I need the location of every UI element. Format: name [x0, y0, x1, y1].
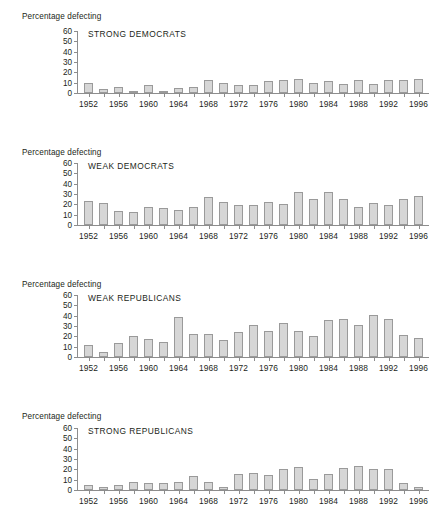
- bar: [309, 336, 318, 357]
- bar-slot: [216, 295, 231, 357]
- x-tick-label: 1972: [229, 231, 248, 241]
- bar-slot: [96, 295, 111, 357]
- bar: [249, 325, 258, 357]
- bar: [339, 199, 348, 225]
- bar: [84, 345, 93, 357]
- bar: [219, 83, 228, 93]
- y-tick-label: 40: [63, 444, 72, 453]
- bar: [264, 202, 273, 225]
- bar: [339, 84, 348, 93]
- bar-slot: [126, 428, 141, 490]
- bar-slot: [171, 163, 186, 225]
- bar-slot: [111, 163, 126, 225]
- bar: [354, 466, 363, 490]
- bar-slot: [366, 295, 381, 357]
- x-tick-label: 1956: [109, 99, 128, 109]
- bar-slot: [246, 295, 261, 357]
- x-tick-label: 1996: [409, 99, 428, 109]
- bar: [189, 207, 198, 225]
- bar-slot: [351, 428, 366, 490]
- bar-slot: [411, 31, 426, 93]
- bar: [384, 205, 393, 225]
- bar-slot: [276, 295, 291, 357]
- bar: [384, 319, 393, 357]
- x-tick-label: 1980: [289, 231, 308, 241]
- bar-slot: [156, 428, 171, 490]
- x-tick-label: 1980: [289, 363, 308, 373]
- x-tick-label: 1956: [109, 496, 128, 506]
- bar-slot: [381, 31, 396, 93]
- x-tick-label: 1964: [169, 231, 188, 241]
- bar-slot: [291, 163, 306, 225]
- x-tick-label: 1964: [169, 363, 188, 373]
- bar: [129, 212, 138, 225]
- bar-slot: [396, 31, 411, 93]
- bar: [264, 331, 273, 357]
- x-tick-label: 1996: [409, 496, 428, 506]
- bar-slot: [81, 163, 96, 225]
- bar-slot: [381, 163, 396, 225]
- bar: [204, 197, 213, 225]
- y-tick-label: 10: [63, 78, 72, 87]
- bar: [234, 332, 243, 357]
- bar: [309, 83, 318, 93]
- bar-slot: [111, 31, 126, 93]
- x-tick-label: 1992: [379, 363, 398, 373]
- bar-slot: [276, 428, 291, 490]
- y-tick-label: 0: [67, 353, 72, 362]
- bar-slot: [81, 428, 96, 490]
- bar: [84, 83, 93, 93]
- bar: [354, 80, 363, 93]
- bar: [159, 483, 168, 490]
- x-tick-label: 1968: [199, 496, 218, 506]
- y-tick-label: 60: [63, 27, 72, 36]
- y-tick-label: 60: [63, 291, 72, 300]
- bar: [339, 319, 348, 357]
- x-tick-label: 1972: [229, 496, 248, 506]
- bar-slot: [246, 31, 261, 93]
- bar: [294, 192, 303, 225]
- x-axis-labels: 1952195619601964196819721976198019841988…: [78, 490, 429, 506]
- bar: [264, 475, 273, 490]
- bar-slot: [276, 163, 291, 225]
- bar-slot: [111, 428, 126, 490]
- bar-slot: [351, 163, 366, 225]
- x-tick-label: 1976: [259, 496, 278, 506]
- bar-slot: [261, 31, 276, 93]
- bar-slot: [246, 428, 261, 490]
- y-tick-label: 0: [67, 486, 72, 495]
- bar: [384, 469, 393, 490]
- x-tick-label: 1964: [169, 99, 188, 109]
- bar: [354, 207, 363, 225]
- x-tick-label: 1972: [229, 99, 248, 109]
- y-tick-label: 50: [63, 37, 72, 46]
- bar-slot: [141, 31, 156, 93]
- bar-slot: [321, 428, 336, 490]
- bar-slot: [201, 428, 216, 490]
- bar: [369, 315, 378, 357]
- x-tick-label: 1980: [289, 496, 308, 506]
- bar-slot: [201, 163, 216, 225]
- bar: [99, 203, 108, 225]
- bar: [144, 483, 153, 490]
- y-tick-label: 20: [63, 332, 72, 341]
- bar: [234, 474, 243, 490]
- chart-panel: Percentage defectingSTRONG REPUBLICANS01…: [0, 395, 441, 522]
- bar-slot: [336, 295, 351, 357]
- y-axis-caption: Percentage defecting: [22, 280, 101, 289]
- bar-slot: [81, 295, 96, 357]
- y-tick-label: 50: [63, 301, 72, 310]
- bar-slot: [231, 428, 246, 490]
- bar: [369, 203, 378, 225]
- plot-area: 0102030405060195219561960196419681972197…: [77, 163, 429, 226]
- x-tick-label: 1952: [79, 496, 98, 506]
- bar: [144, 85, 153, 93]
- y-tick-label: 50: [63, 169, 72, 178]
- x-tick-label: 1952: [79, 99, 98, 109]
- bar: [114, 343, 123, 357]
- bar-slot: [141, 295, 156, 357]
- x-tick-label: 1988: [349, 231, 368, 241]
- bar: [174, 482, 183, 490]
- bar: [309, 479, 318, 490]
- y-tick-label: 20: [63, 68, 72, 77]
